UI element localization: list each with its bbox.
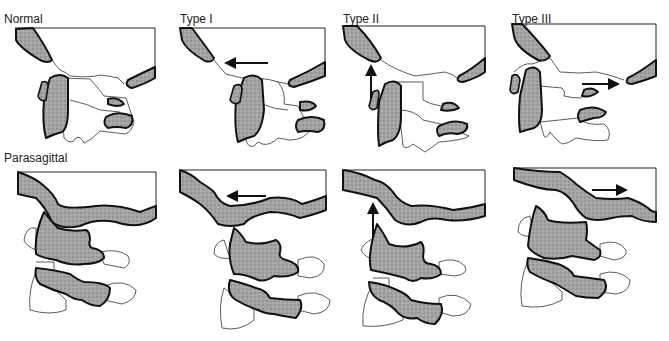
diagram-type-2-coronal [335,0,505,160]
diagram-normal-coronal [0,0,170,160]
diagram-type-1-coronal [170,0,340,160]
diagram-type-2-parasagittal [335,160,505,341]
diagram-type-3-coronal [500,0,669,160]
diagram-type-1-parasagittal [170,160,340,341]
diagram-type-3-parasagittal [500,160,669,341]
diagram-normal-parasagittal [0,160,170,341]
